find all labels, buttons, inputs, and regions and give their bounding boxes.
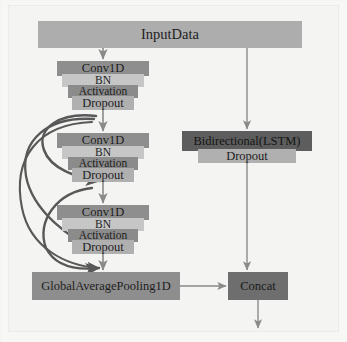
node-label: Concat [240, 280, 275, 293]
node-label: Dropout [82, 241, 124, 254]
node-label: InputData [141, 27, 199, 42]
node-input-data[interactable]: InputData [38, 21, 302, 48]
node-label: Dropout [82, 169, 124, 182]
node-label: Bidirectional(LSTM) [194, 135, 301, 148]
node-label: Dropout [226, 150, 268, 163]
node-concat[interactable]: Concat [228, 272, 288, 300]
node-bidirectional-lstm[interactable]: Bidirectional(LSTM) [182, 131, 312, 151]
node-label: Dropout [82, 97, 124, 110]
node-dropout-1[interactable]: Dropout [72, 96, 134, 110]
node-dropout-2[interactable]: Dropout [72, 168, 134, 182]
node-label: Conv1D [82, 206, 124, 219]
node-label: GlobalAveragePooling1D [41, 280, 171, 293]
node-dropout-3[interactable]: Dropout [72, 240, 134, 254]
node-label: Conv1D [82, 62, 124, 75]
node-global-average-pooling-1d[interactable]: GlobalAveragePooling1D [32, 272, 180, 300]
node-label: Conv1D [82, 134, 124, 147]
diagram-canvas: InputData Conv1D BN Activation Dropout C… [0, 0, 347, 342]
node-dropout-lstm[interactable]: Dropout [198, 149, 296, 163]
